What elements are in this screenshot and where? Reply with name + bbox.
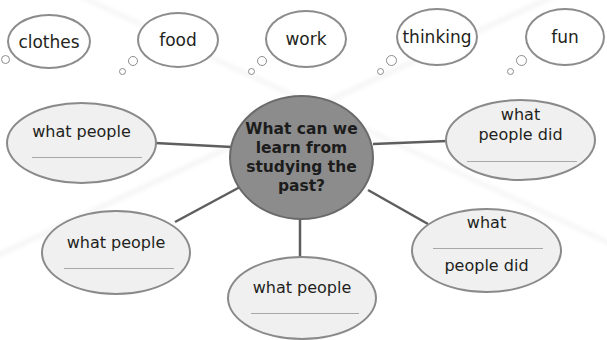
bubble-label: thinking — [396, 8, 478, 66]
node-text-line1: what — [447, 105, 594, 124]
node-what-people-1: what people — [6, 102, 157, 184]
answer-blank-line[interactable] — [467, 161, 577, 162]
bubble-puff — [119, 68, 126, 75]
answer-blank-line[interactable] — [32, 157, 142, 158]
answer-blank-line[interactable] — [251, 313, 359, 314]
bubble-puff — [257, 56, 267, 66]
bubble-puff — [248, 68, 255, 75]
node-what-people-2: what people — [41, 210, 191, 295]
central-question-text: What can we learn from studying the past… — [244, 120, 359, 196]
bubble-label: food — [137, 12, 219, 68]
node-what-people-did-2: what people did — [411, 208, 562, 293]
node-text: what people — [43, 233, 189, 252]
bubble-label: clothes — [7, 14, 91, 69]
node-text: what people — [229, 278, 375, 297]
central-question: What can we learn from studying the past… — [229, 95, 374, 220]
answer-blank-line[interactable] — [433, 248, 543, 249]
node-text-line2: people did — [413, 256, 560, 275]
bubble-puff — [386, 55, 397, 66]
node-text: what people — [8, 122, 155, 141]
bubble-puff — [377, 68, 384, 75]
bubble-label: work — [265, 10, 347, 68]
bubble-puff — [128, 56, 138, 66]
answer-blank-line[interactable] — [64, 268, 174, 269]
bubble-puff — [1, 55, 10, 64]
node-text-line1: what — [413, 213, 560, 232]
bubble-label: fun — [525, 8, 605, 66]
node-what-people-did-1: what people did — [445, 99, 596, 181]
connector-left-top — [155, 143, 232, 147]
bubble-puff — [516, 55, 527, 66]
node-text-line2: people did — [447, 125, 594, 144]
connector-right-top — [373, 141, 447, 144]
connector-left-bottom — [175, 187, 240, 222]
node-what-people-3: what people — [227, 256, 377, 340]
bubble-puff — [507, 68, 514, 75]
